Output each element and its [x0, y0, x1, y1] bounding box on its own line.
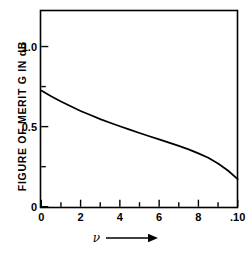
y-axis-title: FIGURE OF MERIT G IN dB [14, 26, 30, 206]
x-tick-label-10: .10 [230, 211, 245, 223]
y-tick-label-2: 0.5 [0, 121, 37, 133]
x-tick-label-2: 2 [78, 211, 84, 223]
x-tick-label-8: 8 [195, 211, 201, 223]
y-tick-label-0: 0 [0, 201, 37, 213]
x-tick-label-6: 6 [156, 211, 162, 223]
data-series-group [41, 91, 237, 180]
y-tick-label-4: 1.0 [0, 41, 37, 53]
chart-figure: FIGURE OF MERIT G IN dB 00.51.0 02468.10… [0, 0, 251, 253]
x-tick-label-4: 4 [117, 211, 123, 223]
data-curve-0 [41, 91, 237, 180]
plot-frame [41, 11, 238, 208]
x-axis-title: ν [0, 232, 251, 244]
y-axis-title-text: FIGURE OF MERIT G IN dB [16, 41, 28, 191]
x-tick-label-0: 0 [38, 211, 44, 223]
right-arrow-icon [106, 232, 158, 244]
x-axis-title-symbol: ν [93, 232, 100, 244]
y-tick-marks [41, 47, 48, 207]
x-tick-marks [41, 200, 237, 207]
